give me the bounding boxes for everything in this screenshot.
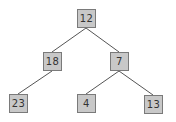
tree-node-18: 18 xyxy=(43,52,62,71)
edge-7-4 xyxy=(86,71,119,94)
tree-node-12: 12 xyxy=(77,9,96,28)
edge-7-13 xyxy=(119,71,153,95)
edge-18-23 xyxy=(18,71,52,94)
tree-node-7: 7 xyxy=(110,52,129,71)
edge-12-18 xyxy=(52,28,86,52)
tree-node-13: 13 xyxy=(144,95,163,114)
tree-node-23: 23 xyxy=(9,94,28,113)
tree-node-4: 4 xyxy=(77,94,96,113)
edge-12-7 xyxy=(86,28,119,52)
